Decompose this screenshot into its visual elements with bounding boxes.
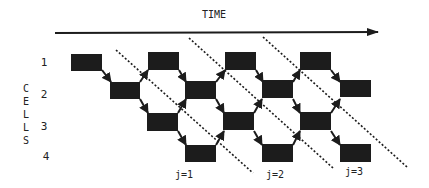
cells-letter: C <box>23 83 29 94</box>
dependency-arrows <box>102 70 340 145</box>
block-cell3-step2 <box>223 112 254 130</box>
cells-axis-label: C E L L S <box>23 83 29 146</box>
block-cell1-step4 <box>300 52 331 70</box>
cell-number-3: 3 <box>41 120 48 133</box>
cell-number-4: 4 <box>43 150 50 163</box>
wavefront-diagram: TIME C E L L S 1 2 3 4 <box>0 0 429 188</box>
block-cell1-step1 <box>71 54 102 71</box>
cell-number-2: 2 <box>41 88 48 101</box>
block-cell2-step4 <box>340 80 371 97</box>
time-label: TIME <box>202 9 226 20</box>
cells-letter: L <box>23 109 29 120</box>
block-cell2-step2 <box>185 81 216 99</box>
block-cell4-step3 <box>340 144 371 162</box>
wavefront-label-3: j=3 <box>345 166 363 177</box>
block-cell2-step3 <box>262 80 293 98</box>
block-cell2-step1 <box>110 82 140 99</box>
cells-letter: S <box>23 135 29 146</box>
cells-letter: E <box>23 96 29 107</box>
block-cell4-step1 <box>185 145 216 162</box>
cell-number-1: 1 <box>41 56 48 69</box>
block-cell1-step2 <box>148 52 179 70</box>
wavefront-label-1: j=1 <box>175 169 193 180</box>
block-cell3-step1 <box>147 113 178 131</box>
time-arrow <box>55 32 378 33</box>
block-cell3-step3 <box>300 112 331 130</box>
block-cell4-step2 <box>262 144 293 162</box>
cells-letter: L <box>23 122 29 133</box>
block-cell1-step3 <box>225 52 256 70</box>
wavefront-label-2: j=2 <box>266 169 284 180</box>
